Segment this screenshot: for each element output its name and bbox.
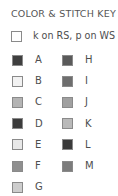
color-label: C xyxy=(35,96,42,108)
color-label: K xyxy=(85,118,92,130)
color-label: D xyxy=(35,118,43,130)
color-label: L xyxy=(85,139,91,151)
color-swatch xyxy=(12,55,23,66)
color-key-row-i: I xyxy=(62,75,88,87)
color-key-row-e: E xyxy=(12,139,41,151)
color-label: B xyxy=(35,75,42,87)
color-swatch xyxy=(62,139,73,150)
color-key-row-d: D xyxy=(12,118,43,130)
color-key-row-h: H xyxy=(62,54,93,66)
color-swatch xyxy=(62,97,73,108)
color-label: A xyxy=(35,54,42,66)
color-swatch xyxy=(12,97,23,108)
color-key-row-f: F xyxy=(12,160,41,172)
color-swatch xyxy=(12,139,23,150)
stitch-key-row: k on RS, p on WS xyxy=(11,30,115,42)
stitch-key-label: k on RS, p on WS xyxy=(33,30,115,42)
color-swatch xyxy=(62,161,73,172)
color-label: J xyxy=(85,96,88,108)
color-key-row-m: M xyxy=(62,160,94,172)
stitch-swatch xyxy=(11,31,22,42)
color-swatch xyxy=(62,118,73,129)
key-title: COLOR & STITCH KEY xyxy=(11,8,116,19)
color-label: E xyxy=(35,139,41,151)
color-label: M xyxy=(85,160,94,172)
color-label: I xyxy=(85,75,88,87)
color-label: H xyxy=(85,54,93,66)
color-swatch xyxy=(62,76,73,87)
color-key-row-g: G xyxy=(12,181,43,193)
color-swatch xyxy=(12,118,23,129)
color-label: F xyxy=(35,160,41,172)
color-swatch xyxy=(12,182,23,193)
color-swatch xyxy=(62,55,73,66)
color-swatch xyxy=(12,76,23,87)
color-key-row-k: K xyxy=(62,118,92,130)
color-label: G xyxy=(35,181,43,193)
color-swatch xyxy=(12,161,23,172)
color-key-row-a: A xyxy=(12,54,42,66)
color-key-row-j: J xyxy=(62,96,88,108)
color-key-row-l: L xyxy=(62,139,91,151)
color-key-row-c: C xyxy=(12,96,42,108)
color-key-row-b: B xyxy=(12,75,42,87)
